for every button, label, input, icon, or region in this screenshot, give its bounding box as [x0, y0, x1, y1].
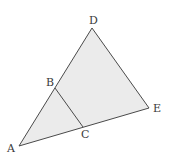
label-C: C: [81, 128, 89, 141]
label-A: A: [6, 142, 16, 155]
label-E: E: [153, 102, 161, 115]
label-B: B: [46, 76, 54, 89]
label-D: D: [89, 14, 98, 27]
triangle-diagram: D A E B C: [0, 0, 170, 156]
